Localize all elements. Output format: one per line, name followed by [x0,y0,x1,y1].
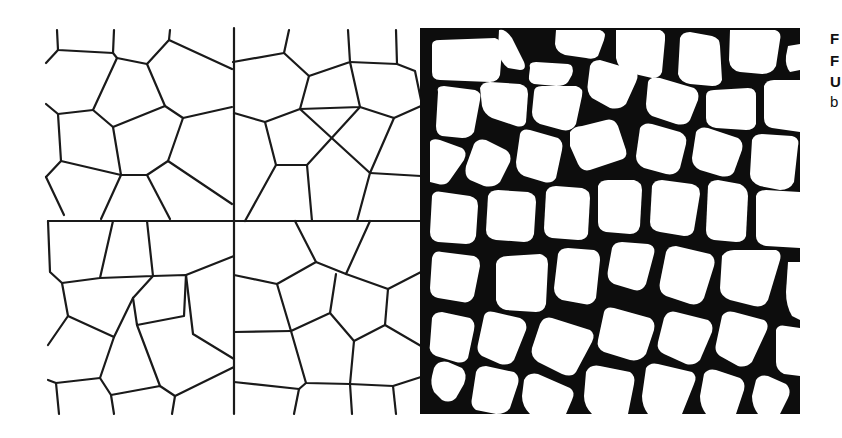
voronoi-panels [0,0,842,438]
caption-line-3: U [830,74,841,89]
foam-micrograph [427,28,800,414]
caption-line-4: b [830,94,838,109]
panel-border [420,28,427,414]
paper-figure: F F U b [0,0,842,438]
caption-line-2: F [830,53,839,68]
caption-line-1: F [830,31,839,46]
